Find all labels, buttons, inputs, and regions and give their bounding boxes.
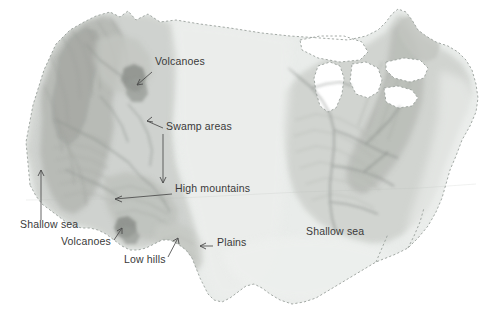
map-label-plains: Plains	[217, 237, 247, 248]
map-label-shallow-sea-east: Shallow sea	[306, 226, 364, 237]
map-label-swamp-areas: Swamp areas	[166, 121, 232, 132]
map-label-high-mountains: High mountains	[175, 183, 250, 194]
map-label-volcanoes-south: Volcanoes	[61, 236, 111, 247]
map-label-volcanoes-north: Volcanoes	[155, 56, 205, 67]
map-label-low-hills: Low hills	[124, 254, 166, 265]
map-label-shallow-sea-west: Shallow sea	[20, 219, 78, 230]
map-canvas	[0, 0, 501, 328]
paleogeographic-map-figure: Volcanoes Swamp areas High mountains Sha…	[0, 0, 501, 328]
